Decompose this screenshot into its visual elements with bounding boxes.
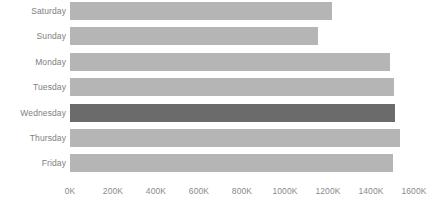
category-label: Monday — [35, 53, 66, 71]
category-label: Wednesday — [20, 104, 66, 122]
category-label: Tuesday — [33, 78, 66, 96]
bar-row: Monday — [0, 53, 418, 71]
bar[interactable] — [70, 27, 318, 45]
x-tick-label: 600K — [189, 185, 209, 197]
bar[interactable] — [70, 129, 400, 147]
bar[interactable] — [70, 2, 332, 20]
bar[interactable] — [70, 78, 394, 96]
bar-row: Friday — [0, 154, 418, 172]
bar[interactable] — [70, 104, 395, 122]
category-label: Saturday — [31, 2, 66, 20]
bar-row: Thursday — [0, 129, 418, 147]
x-tick-label: 1600K — [401, 185, 426, 197]
bar-rows: SaturdaySundayMondayTuesdayWednesdayThur… — [0, 0, 418, 180]
x-tick-label: 1200K — [315, 185, 340, 197]
bar-row: Sunday — [0, 27, 418, 45]
bar-row: Tuesday — [0, 78, 418, 96]
x-tick-label: 800K — [232, 185, 252, 197]
bar-row: Wednesday — [0, 104, 418, 122]
x-axis: 0K200K400K600K800K1000K1200K1400K1600K — [0, 182, 418, 208]
x-tick-label: 400K — [146, 185, 166, 197]
category-label: Thursday — [30, 129, 66, 147]
x-tick-label: 1000K — [272, 185, 297, 197]
x-tick-label: 0K — [65, 185, 76, 197]
category-label: Sunday — [37, 27, 66, 45]
bar[interactable] — [70, 154, 393, 172]
category-label: Friday — [42, 154, 66, 172]
x-tick-label: 200K — [103, 185, 123, 197]
bar[interactable] — [70, 53, 390, 71]
x-tick-label: 1400K — [358, 185, 383, 197]
bar-row: Saturday — [0, 2, 418, 20]
